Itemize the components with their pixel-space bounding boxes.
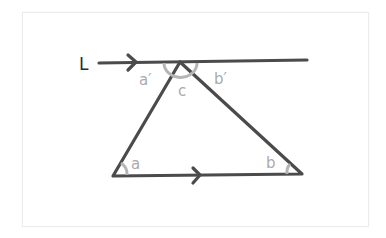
- angle-label-c: c: [178, 82, 186, 100]
- triangle-diagram: L a′ c b′ a b: [0, 0, 386, 238]
- angle-a-arc: [121, 163, 127, 175]
- angle-label-b: b: [266, 154, 276, 172]
- apex-angle-arc: [164, 63, 197, 77]
- angle-label-a-prime: a′: [139, 71, 152, 89]
- parallel-line-l: [99, 60, 307, 63]
- angle-label-b-prime: b′: [214, 70, 228, 88]
- angle-label-a: a: [131, 155, 140, 173]
- angle-b-arc: [287, 164, 290, 174]
- line-label-l: L: [79, 54, 89, 74]
